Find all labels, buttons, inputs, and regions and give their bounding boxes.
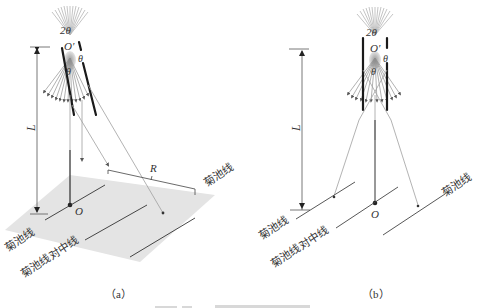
kikuchi-center-line [336,187,398,228]
length-label: L [24,124,38,132]
origin-prime-label: O′ [64,40,75,52]
kikuchi-diagram: 2θ O′ θ θ L O R 菊池线 菊池线对中线 菊池线 （a） [0,0,482,308]
ray-hit-point [162,212,165,215]
r-label: R [149,162,157,174]
subfigure-label-b: （b） [362,288,390,300]
ray-hit-point-right [417,205,420,208]
theta-right-label: θ [383,53,388,64]
panel-b: 2θ O′ θ θ L O 菊池线 菊池线对中线 菊池线 （b） [256,7,474,300]
kikuchi-line-left [296,182,355,219]
kikuchi-line-left-label: 菊池线 [256,213,291,243]
two-theta-label: 2θ [60,24,72,36]
diffracted-rays [334,70,418,205]
kikuchi-line-right [383,194,445,235]
panel-a: 2θ O′ θ θ L O R 菊池线 菊池线对中线 菊池线 （a） [2,6,236,300]
screen-plane [5,175,215,262]
origin-label: O [75,205,83,217]
scattered-beam-fan [348,58,400,101]
kikuchi-line-right-label: 菊池线 [439,170,474,200]
origin-prime-label: O′ [370,42,381,54]
theta-center-label: θ [66,66,71,77]
theta-right-label: θ [78,53,83,64]
theta-center-label: θ [371,66,376,77]
subfigure-label-a: （a） [105,288,132,300]
length-label: L [289,124,303,132]
two-theta-label: 2θ [366,26,378,38]
kikuchi-line-right-label: 菊池线 [201,160,236,190]
origin-label: O [371,208,379,220]
